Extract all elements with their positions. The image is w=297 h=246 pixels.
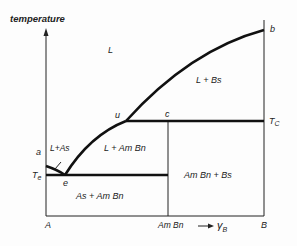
point-c: c	[165, 109, 170, 119]
label-te: Te	[32, 170, 42, 181]
tie-mark	[55, 162, 61, 169]
axis-arrow-icon	[44, 28, 49, 36]
y-axis-label: temperature	[10, 13, 66, 24]
liquidus-u-b	[126, 30, 264, 121]
x-axis-label: γB	[217, 219, 228, 233]
liquidus-a-e	[46, 166, 65, 175]
tick-ambn: Am Bn	[157, 220, 184, 230]
tick-b: B	[261, 220, 267, 230]
phase-diagram: temperature L L + Bs L+As L + Am Bn As +…	[0, 0, 297, 246]
region-l-bs: L + Bs	[196, 75, 222, 85]
label-tc: TC	[269, 116, 281, 127]
point-b: b	[270, 24, 275, 34]
point-u: u	[115, 110, 120, 120]
region-ambn-bs: Am Bn + Bs	[183, 170, 232, 180]
tick-a: A	[44, 220, 51, 230]
region-l-ambn: L + Am Bn	[104, 143, 146, 153]
region-liquid: L	[108, 45, 113, 55]
region-as-ambn: As + Am Bn	[75, 191, 123, 201]
point-a: a	[36, 147, 41, 157]
point-e: e	[63, 178, 68, 188]
x-arrow-icon	[208, 224, 214, 229]
phase-diagram-canvas: temperature L L + Bs L+As L + Am Bn As +…	[0, 0, 297, 246]
region-l-as: L+As	[50, 143, 70, 153]
